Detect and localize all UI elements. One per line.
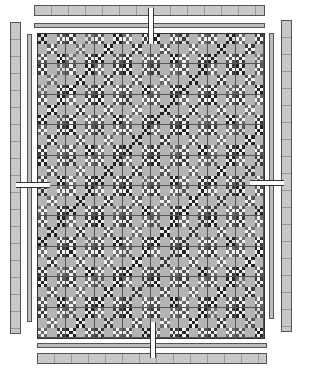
solid-square [76,186,85,196]
nine-patch-unit [236,176,245,186]
solid-square [57,166,66,176]
solid-square [179,75,188,85]
solid-square [38,257,47,267]
solid-square [160,247,169,257]
nine-patch-unit [85,95,94,105]
nine-patch-unit [123,237,132,247]
nine-patch-unit [226,186,235,196]
nine-patch-unit [38,54,47,64]
solid-square [76,125,85,135]
solid-square [57,75,66,85]
solid-square [217,206,226,216]
right-seam-arrow [250,180,284,186]
solid-square [57,318,66,328]
nine-patch-unit [123,115,132,125]
nine-patch-unit [198,156,207,166]
solid-square [217,237,226,247]
nine-patch-unit [104,318,113,328]
solid-square [179,227,188,237]
nine-patch-unit [151,54,160,64]
nine-patch-unit [123,297,132,307]
solid-square [47,34,56,44]
nine-patch-unit [38,85,47,95]
nine-patch-unit [236,54,245,64]
nine-patch-unit [38,156,47,166]
solid-square [95,257,104,267]
solid-square [142,75,151,85]
solid-square [104,176,113,186]
solid-square [170,257,179,267]
solid-square [85,135,94,145]
solid-square [57,196,66,206]
solid-square [179,196,188,206]
nine-patch-unit [76,287,85,297]
solid-square [66,257,75,267]
solid-square [123,287,132,297]
nine-patch-unit [179,95,188,105]
nine-patch-unit [179,308,188,318]
solid-square [226,196,235,206]
nine-patch-unit [123,176,132,186]
nine-patch-unit [76,196,85,206]
nine-patch-unit [160,166,169,176]
solid-square [198,75,207,85]
solid-square [151,75,160,85]
nine-patch-unit [208,64,217,74]
solid-square [189,115,198,125]
nine-patch-unit [57,176,66,186]
nine-patch-unit [132,135,141,145]
nine-patch-unit [66,247,75,257]
nine-patch-unit [57,95,66,105]
solid-square [132,247,141,257]
solid-square [85,227,94,237]
nine-patch-unit [160,257,169,267]
nine-patch-unit [66,115,75,125]
solid-square [255,318,264,328]
nine-patch-unit [113,237,122,247]
solid-square [226,257,235,267]
nine-patch-unit [189,166,198,176]
solid-square [245,206,254,216]
nine-patch-unit [95,95,104,105]
nine-patch-unit [198,145,207,155]
solid-square [104,237,113,247]
solid-square [179,257,188,267]
solid-square [38,105,47,115]
solid-square [208,257,217,267]
solid-square [47,237,56,247]
solid-square [76,156,85,166]
nine-patch-unit [226,54,235,64]
nine-patch-unit [57,186,66,196]
nine-patch-unit [208,145,217,155]
solid-square [179,166,188,176]
solid-square [217,64,226,74]
solid-square [47,267,56,277]
solid-square [85,196,94,206]
nine-patch-unit [85,297,94,307]
nine-patch-unit [123,186,132,196]
nine-patch-unit [142,125,151,135]
nine-patch-unit [226,64,235,74]
nine-patch-unit [217,135,226,145]
nine-patch-unit [217,318,226,328]
nine-patch-unit [151,145,160,155]
nine-patch-unit [226,267,235,277]
nine-patch-unit [57,54,66,64]
solid-square [132,186,141,196]
nine-patch-unit [47,287,56,297]
nine-patch-unit [255,156,264,166]
solid-square [76,277,85,287]
nine-patch-unit [142,176,151,186]
solid-square [47,115,56,125]
nine-patch-unit [123,125,132,135]
nine-patch-unit [38,34,47,44]
nine-patch-unit [104,105,113,115]
nine-patch-unit [151,85,160,95]
solid-square [123,44,132,54]
solid-square [170,75,179,85]
nine-patch-unit [179,125,188,135]
nine-patch-unit [189,135,198,145]
solid-square [76,85,85,95]
nine-patch-unit [123,54,132,64]
nine-patch-unit [142,95,151,105]
